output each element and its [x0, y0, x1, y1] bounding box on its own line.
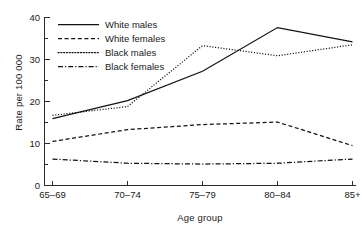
- y-axis-major-ticks: [45, 18, 51, 186]
- y-tick-label: 30: [29, 54, 40, 65]
- legend-label: White males: [105, 19, 158, 30]
- legend-label: Black females: [105, 61, 164, 72]
- x-axis-ticks: [53, 181, 353, 186]
- legend-label: White females: [105, 33, 165, 44]
- legend-item-black-males: Black males: [58, 47, 156, 58]
- legend-label: Black males: [105, 47, 156, 58]
- y-tick-label: 40: [29, 12, 40, 23]
- plot-area: 0 10 20 30 40 65–69 70–74 75–79 80–84 85…: [0, 0, 362, 235]
- series-group: [53, 28, 353, 165]
- x-tick-label: 65–69: [39, 189, 65, 200]
- x-tick-label: 70–74: [114, 189, 140, 200]
- y-tick-label: 10: [29, 138, 40, 149]
- x-tick-label: 75–79: [189, 189, 215, 200]
- x-tick-label: 80–84: [264, 189, 290, 200]
- y-axis-tick-labels: 0 10 20 30 40: [29, 12, 40, 191]
- series-line-white-females: [53, 122, 353, 146]
- legend-item-black-females: Black females: [58, 61, 164, 72]
- legend-item-white-females: White females: [58, 33, 165, 44]
- x-tick-label: 85+: [344, 189, 361, 200]
- y-tick-label: 20: [29, 96, 40, 107]
- series-line-black-females: [53, 159, 353, 164]
- series-line-black-males: [53, 45, 353, 116]
- x-axis-tick-labels: 65–69 70–74 75–79 80–84 85+: [39, 189, 361, 200]
- legend: White males White females Black males Bl…: [58, 19, 165, 72]
- series-line-white-males: [53, 28, 353, 119]
- line-chart: Rate per 100 000 Age group 0 10 20 30: [0, 0, 362, 235]
- legend-item-white-males: White males: [58, 19, 158, 30]
